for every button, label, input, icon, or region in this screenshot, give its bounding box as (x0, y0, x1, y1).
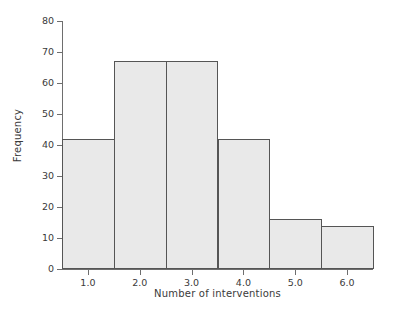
x-axis-tick (140, 270, 141, 275)
histogram-bar (321, 226, 374, 269)
histogram-bar (166, 61, 219, 269)
x-axis-tick-label: 1.0 (68, 277, 108, 288)
y-axis-tick-label: 70 (14, 47, 54, 57)
y-axis-tick-label: 20 (14, 202, 54, 212)
x-axis-tick (347, 270, 348, 275)
x-axis-tick-label: 4.0 (223, 277, 263, 288)
y-axis-tick-label: 0 (14, 264, 54, 274)
y-axis-title: Frequency (8, 0, 28, 270)
histogram-bar (62, 139, 115, 269)
y-axis-tick-label: 40 (14, 140, 54, 150)
histogram-bar (218, 139, 271, 269)
y-axis-tick-label: 10 (14, 233, 54, 243)
histogram-bar (269, 219, 322, 269)
histogram-figure: Frequency 01020304050607080 1.02.03.04.0… (0, 0, 393, 313)
x-axis-title: Number of interventions (62, 288, 373, 299)
y-axis-tick-label: 30 (14, 171, 54, 181)
y-axis-tick-label: 50 (14, 109, 54, 119)
histogram-bar (114, 61, 167, 269)
x-axis-tick (192, 270, 193, 275)
y-axis-tick-label: 80 (14, 16, 54, 26)
plot-area (62, 21, 373, 269)
x-axis-tick-label: 2.0 (120, 277, 160, 288)
x-axis-tick-label: 6.0 (327, 277, 367, 288)
x-axis-spine (62, 269, 373, 270)
y-axis-tick (57, 269, 62, 270)
x-axis-tick (295, 270, 296, 275)
x-axis-tick (88, 270, 89, 275)
y-axis-tick-label: 60 (14, 78, 54, 88)
x-axis-tick-label: 5.0 (275, 277, 315, 288)
x-axis-tick (243, 270, 244, 275)
x-axis-tick-label: 3.0 (172, 277, 212, 288)
